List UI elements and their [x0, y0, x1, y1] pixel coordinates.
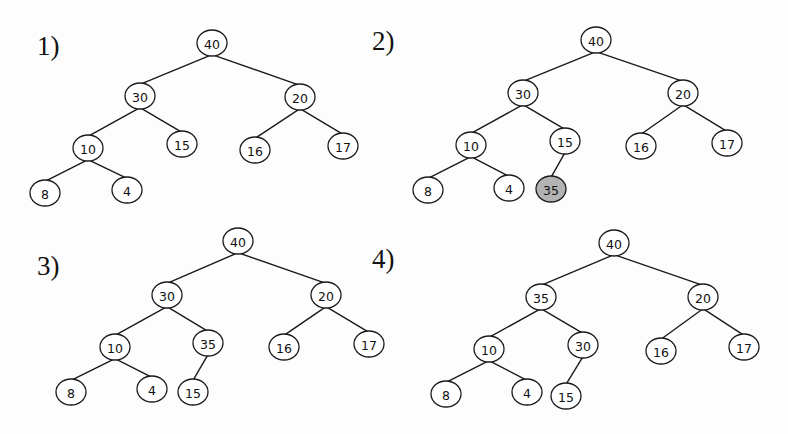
- tree-node: 10: [474, 336, 504, 362]
- node-value: 20: [695, 291, 711, 306]
- tree-edge-35-15: [193, 355, 208, 381]
- tree-node: 4: [494, 175, 524, 201]
- node-value: 10: [463, 139, 479, 154]
- tree-edge-30-15: [523, 105, 565, 130]
- tree-node: 8: [413, 177, 443, 203]
- tree-edge-40-20: [238, 253, 326, 284]
- tree-node: 30: [508, 80, 538, 106]
- node-value: 10: [107, 341, 123, 356]
- node-value: 16: [633, 140, 649, 155]
- tree-node: 35: [536, 176, 566, 202]
- tree-edge-40-20: [596, 52, 683, 82]
- tree-edge-30-10: [471, 105, 523, 134]
- tree-node: 20: [668, 80, 698, 106]
- tree-node: 30: [568, 332, 598, 358]
- tree-node: 20: [285, 84, 315, 110]
- node-value: 17: [719, 137, 735, 152]
- node-value: 4: [523, 386, 531, 401]
- node-value: 35: [200, 337, 216, 352]
- tree-edge-40-30: [523, 52, 596, 82]
- node-value: 16: [276, 341, 292, 356]
- tree-edge-40-20: [212, 55, 300, 86]
- tree-edges: [446, 255, 744, 385]
- tree-edge-20-17: [703, 309, 744, 336]
- node-value: 16: [653, 345, 669, 360]
- tree-edge-20-17: [300, 109, 343, 135]
- tree-node: 16: [269, 334, 299, 360]
- node-value: 35: [533, 291, 549, 306]
- tree-node: 17: [328, 133, 358, 159]
- tree-edge-30-15: [566, 357, 583, 385]
- node-value: 8: [41, 187, 49, 202]
- node-value: 8: [424, 184, 432, 199]
- tree-node: 8: [431, 381, 461, 407]
- node-value: 40: [230, 235, 246, 250]
- tree-panel-1: 1)4030201015161784: [30, 30, 358, 206]
- node-value: 40: [204, 37, 220, 52]
- tree-edge-40-35: [541, 255, 614, 286]
- tree-edge-10-8: [45, 160, 88, 182]
- tree-edge-10-8: [446, 361, 489, 383]
- tree-node: 4: [512, 379, 542, 405]
- tree-edge-20-16: [661, 309, 703, 340]
- node-value: 10: [481, 343, 497, 358]
- tree-node: 40: [223, 228, 253, 254]
- tree-node: 8: [30, 180, 60, 206]
- node-value: 35: [543, 183, 559, 198]
- heap-insertion-diagram: 1)40302010151617842)4030201015161784353)…: [0, 0, 788, 434]
- tree-node: 17: [729, 334, 759, 360]
- tree-node: 17: [712, 130, 742, 156]
- tree-node: 10: [73, 135, 103, 161]
- tree-node: 16: [240, 137, 270, 163]
- node-value: 30: [575, 339, 591, 354]
- node-value: 4: [148, 383, 156, 398]
- tree-edge-20-17: [326, 307, 369, 333]
- node-value: 15: [557, 135, 573, 150]
- node-value: 30: [132, 90, 148, 105]
- tree-edge-10-4: [489, 361, 527, 381]
- node-value: 30: [159, 289, 175, 304]
- tree-node: 20: [311, 282, 341, 308]
- tree-node: 40: [599, 230, 629, 256]
- node-value: 10: [80, 142, 96, 157]
- node-value: 40: [588, 34, 604, 49]
- tree-node: 15: [551, 383, 581, 409]
- tree-edges: [428, 52, 727, 179]
- tree-node: 15: [550, 128, 580, 154]
- tree-node: 10: [100, 334, 130, 360]
- tree-edge-30-10: [115, 307, 167, 336]
- node-value: 20: [675, 87, 691, 102]
- tree-node: 20: [688, 284, 718, 310]
- tree-edge-15-35: [551, 153, 565, 178]
- tree-edge-30-35: [167, 307, 208, 332]
- node-value: 40: [606, 237, 622, 252]
- tree-edge-10-8: [71, 359, 115, 381]
- node-value: 8: [67, 386, 75, 401]
- tree-node: 10: [456, 132, 486, 158]
- tree-edge-20-17: [683, 105, 727, 132]
- panels-root: 1)40302010151617842)4030201015161784353)…: [30, 26, 759, 409]
- tree-node: 30: [152, 282, 182, 308]
- tree-edge-10-4: [115, 359, 152, 378]
- tree-edge-20-16: [641, 105, 683, 135]
- node-value: 17: [335, 140, 351, 155]
- node-value: 20: [292, 91, 308, 106]
- node-value: 15: [558, 390, 574, 405]
- tree-edges: [45, 55, 343, 182]
- tree-edge-20-16: [284, 307, 326, 336]
- tree-edge-10-4: [471, 157, 509, 177]
- tree-panel-2: 2)403020101516178435: [372, 26, 742, 203]
- tree-edge-40-30: [167, 253, 238, 284]
- tree-node: 30: [125, 83, 155, 109]
- node-value: 15: [185, 386, 201, 401]
- panel-label: 4): [372, 244, 395, 274]
- tree-node: 16: [646, 338, 676, 364]
- node-value: 15: [174, 138, 190, 153]
- tree-node: 15: [178, 379, 208, 405]
- node-value: 17: [736, 341, 752, 356]
- panel-label: 2): [372, 26, 395, 56]
- tree-node: 17: [354, 331, 384, 357]
- tree-node: 40: [581, 27, 611, 53]
- tree-edge-20-16: [255, 109, 300, 139]
- node-value: 4: [505, 182, 513, 197]
